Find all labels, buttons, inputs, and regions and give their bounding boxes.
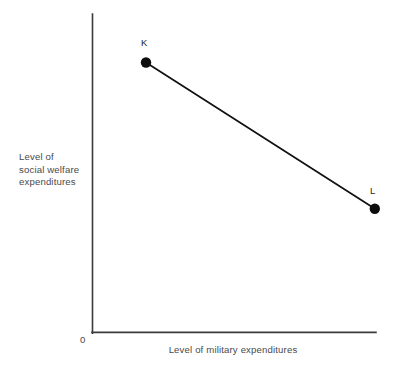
chart-figure: Level of social welfare expenditures Lev… [0,0,399,373]
data-point-label-l: L [370,186,375,196]
data-point-k-marker [141,57,151,67]
data-point-label-k: K [141,38,147,48]
data-point-l-marker [370,204,380,214]
y-axis-label: Level of social welfare expenditures [19,151,91,189]
series-line-tradeoff [146,63,375,209]
x-axis-label: Level of military expenditures [133,344,333,357]
origin-label: 0 [80,334,85,346]
